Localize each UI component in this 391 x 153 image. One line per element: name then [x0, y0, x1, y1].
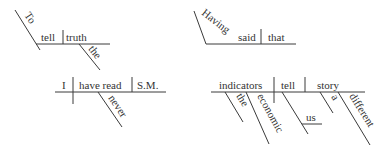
- word-that: that: [268, 31, 285, 43]
- word-sm: S.M.: [137, 79, 159, 91]
- word-tell: tell: [41, 31, 55, 43]
- word-to: To: [22, 10, 39, 27]
- diagram-economic-indicators: indicators tell story the economic us a …: [211, 77, 377, 145]
- word-tell: tell: [281, 79, 295, 91]
- diagram-i-have-never-read: I have read S.M. never: [55, 77, 166, 127]
- diagram-to-tell-the-truth: To tell truth the: [15, 10, 110, 70]
- word-different: different: [347, 91, 377, 129]
- word-said: said: [238, 31, 256, 43]
- word-having: Having: [200, 6, 233, 36]
- word-i: I: [62, 79, 66, 91]
- word-indicators: indicators: [219, 79, 262, 91]
- word-story: story: [317, 79, 340, 91]
- word-truth: truth: [66, 31, 87, 43]
- object-modifier-line-1: [320, 92, 333, 113]
- word-us: us: [306, 111, 316, 123]
- diagram-having-said-that: Having said that: [194, 6, 296, 44]
- word-economic: economic: [255, 91, 286, 134]
- word-a: a: [329, 92, 342, 103]
- word-the: the: [86, 43, 104, 61]
- sentence-diagrams: To tell truth the I have read S.M. never…: [0, 0, 391, 153]
- word-the: the: [234, 91, 251, 109]
- word-have-read: have read: [79, 79, 122, 91]
- word-never: never: [106, 92, 130, 119]
